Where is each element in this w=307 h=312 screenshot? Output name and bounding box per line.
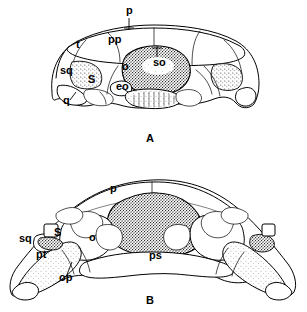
figure-root: p pp t sq q S o so eo A [0,0,307,312]
label-p-a: p [126,4,133,16]
label-ps-b: ps [149,249,162,261]
squamosal-shading-b-right [250,234,275,252]
label-q-a: q [63,94,70,106]
otic-lobe-b-left2 [96,224,122,250]
label-so-a: so [153,56,166,68]
label-sq-b: sq [19,232,32,244]
label-pt-b: pt [36,248,47,260]
anatomical-figure: p pp t sq q S o so eo A [0,0,307,312]
label-p-b: p [110,182,117,194]
otic-lobe-b-right2 [164,224,190,250]
label-eo-a: eo [116,80,129,92]
label-s-b: S [54,226,61,238]
condyle-knob-a [176,90,202,107]
squamosal-shading-a-right [211,64,242,91]
panel-letter-a: A [146,132,154,144]
panel-letter-b: B [146,294,154,306]
label-o-a: o [122,60,129,72]
label-s-a: S [88,73,95,85]
label-sq-a: sq [60,64,73,76]
basioccipital-a [125,89,180,109]
label-o-b: o [89,231,96,243]
quadrate-a-right [235,87,256,106]
label-op-b: op [59,271,73,283]
label-pp-a: pp [108,33,122,45]
supratemporal-box-b-right [262,224,275,236]
label-t-a: t [76,38,80,50]
